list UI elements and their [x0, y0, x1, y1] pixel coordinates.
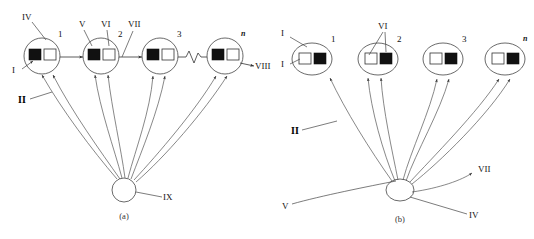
panel-a-node-1-number: 1 [58, 29, 63, 39]
panel-a-label-vi: VI [101, 19, 111, 29]
panel-a-node-2[interactable] [83, 38, 119, 74]
panel-a-node-1[interactable] [24, 38, 60, 74]
panel-a-caption: (a) [119, 211, 129, 221]
panel-a-node-n-number: n [241, 29, 246, 38]
panel-a-label-viii: VIII [255, 61, 271, 71]
panel-b-node-n-number: n [523, 34, 528, 43]
leader-iv-b [410, 197, 467, 214]
leader-ii-b [302, 121, 337, 130]
panel-b-node-1-number: 1 [331, 34, 336, 44]
panel-b-node-2[interactable] [358, 43, 398, 75]
panel-a-output-arrow [240, 63, 254, 66]
diagram-svg: 1 2 3 n VIII [0, 0, 534, 239]
squiggle-break [176, 51, 210, 63]
panel-a-chain-arrows [58, 51, 210, 63]
panel-a: 1 2 3 n VIII [12, 12, 271, 221]
panel-b-node-1[interactable] [292, 43, 332, 75]
panel-b-label-ii: II [291, 125, 299, 136]
panel-b-label-v: V [282, 201, 289, 211]
panel-a-node-3-number: 3 [177, 29, 182, 39]
panel-b: 1 2 3 n I [281, 21, 528, 224]
leader-vii [122, 31, 133, 57]
panel-b-label-iv: IV [469, 210, 479, 220]
panel-a-label-vii: VII [128, 19, 141, 29]
panel-a-hub[interactable] [112, 178, 136, 202]
panel-b-label-vii: VII [478, 164, 491, 174]
panel-a-label-ii: II [18, 94, 26, 105]
panel-b-node-n[interactable] [485, 43, 525, 75]
figure-canvas: 1 2 3 n VIII [0, 0, 534, 239]
panel-b-output-arrow [412, 173, 472, 192]
panel-a-label-v: V [79, 19, 86, 29]
leader-ii-a [30, 92, 52, 99]
leader-iv [32, 22, 46, 40]
panel-a-node-2-number: 2 [118, 29, 123, 39]
panel-b-node-3[interactable] [423, 43, 463, 75]
panel-a-label-i: I [12, 65, 15, 75]
panel-a-label-iv: IV [22, 12, 32, 22]
panel-a-label-ix: IX [163, 192, 173, 202]
panel-b-label-i-bottom: I [281, 59, 284, 69]
panel-a-node-n[interactable] [207, 38, 243, 74]
leader-v-b [292, 181, 396, 204]
panel-b-node-3-number: 3 [462, 34, 467, 44]
panel-b-node-2-number: 2 [397, 34, 402, 44]
leader-i-b-1 [290, 37, 307, 47]
leader-ix [136, 192, 162, 197]
panel-b-label-i-top: I [281, 28, 284, 38]
panel-b-caption: (b) [395, 214, 405, 224]
panel-a-node-3[interactable] [142, 38, 178, 74]
panel-a-curves [42, 75, 227, 182]
panel-b-label-vi: VI [378, 21, 388, 31]
